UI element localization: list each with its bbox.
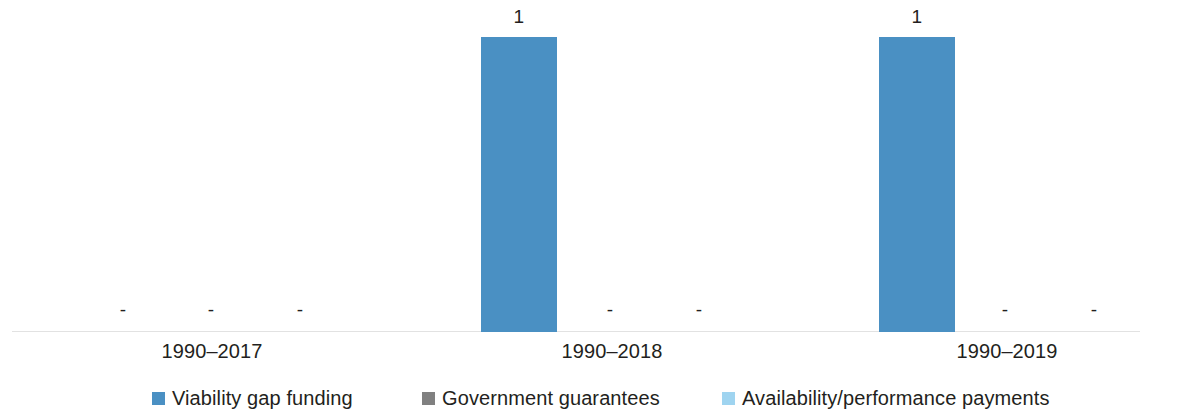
bar-group3-series1[interactable] (879, 37, 955, 332)
null-marker-group2-series2: - (590, 300, 630, 319)
null-marker-group3-series2: - (985, 300, 1025, 319)
null-marker-group3-series3: - (1074, 300, 1114, 319)
x-axis-label-1990-2017: 1990–2017 (132, 340, 292, 363)
null-marker-group1-series2: - (191, 300, 231, 319)
legend-label-government-guarantees: Government guarantees (442, 386, 660, 410)
legend-swatch-icon-government-guarantees (422, 392, 435, 405)
legend-swatch-icon-viability-gap-funding (152, 392, 165, 405)
legend-swatch-icon-availability-performance-payments (722, 392, 735, 405)
plot-area: - - - 1 - - 1 - - (0, 0, 1197, 332)
null-marker-group2-series3: - (679, 300, 719, 319)
chart-legend: Viability gap funding Government guarant… (0, 386, 1197, 419)
legend-label-availability-performance-payments: Availability/performance payments (742, 386, 1050, 410)
null-marker-group1-series3: - (280, 300, 320, 319)
null-marker-group1-series1: - (103, 300, 143, 319)
bar-group2-series1[interactable] (481, 37, 557, 332)
bar-chart: - - - 1 - - 1 - - 1990–2017 1990–2018 19… (0, 0, 1197, 419)
x-axis-baseline (12, 331, 1140, 332)
x-axis-label-1990-2018: 1990–2018 (532, 340, 692, 363)
legend-item-availability-performance-payments[interactable]: Availability/performance payments (722, 386, 1050, 410)
x-axis-labels: 1990–2017 1990–2018 1990–2019 (0, 340, 1197, 370)
x-axis-label-1990-2019: 1990–2019 (927, 340, 1087, 363)
bar-value-label-group2-series1: 1 (499, 6, 539, 28)
legend-item-government-guarantees[interactable]: Government guarantees (422, 386, 660, 410)
bar-value-label-group3-series1: 1 (897, 6, 937, 28)
legend-label-viability-gap-funding: Viability gap funding (172, 386, 353, 410)
legend-item-viability-gap-funding[interactable]: Viability gap funding (152, 386, 353, 410)
